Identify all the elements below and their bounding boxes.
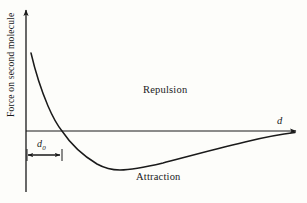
x-axis-label: d bbox=[277, 116, 282, 127]
equilibrium-distance-subscript: 0 bbox=[42, 144, 46, 152]
force-vs-distance-diagram: Force on second molecule d Repulsion Att… bbox=[0, 0, 307, 203]
equilibrium-distance-label: d0 bbox=[37, 139, 46, 152]
y-axis-label: Force on second molecule bbox=[7, 0, 17, 135]
force-curve bbox=[31, 53, 295, 170]
repulsion-region-label: Repulsion bbox=[143, 85, 187, 96]
attraction-region-label: Attraction bbox=[136, 172, 181, 183]
